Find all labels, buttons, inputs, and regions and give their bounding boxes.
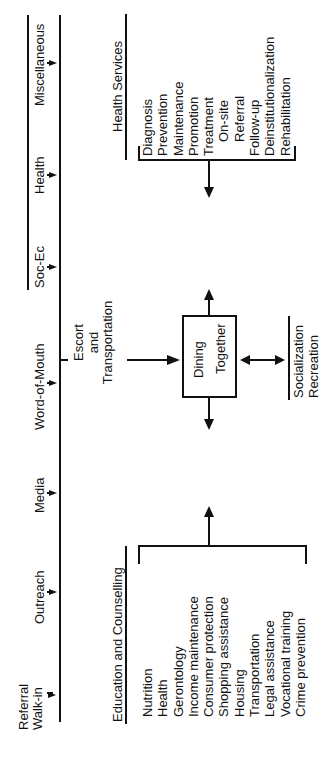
health-item: Diagnosis bbox=[140, 37, 155, 156]
health-bracket-bottom bbox=[138, 159, 296, 161]
source-referral-label: Referral bbox=[17, 684, 31, 730]
health-item: Deinstitutionalization bbox=[262, 37, 277, 156]
education-item: Consumer protection bbox=[201, 596, 216, 717]
social-arrow-up-icon bbox=[240, 355, 250, 365]
social-arrow-down-icon bbox=[275, 355, 285, 365]
escort-arrow-shaft bbox=[127, 359, 169, 361]
escort-line3: Transportation bbox=[101, 290, 116, 395]
health-item: Referral bbox=[232, 37, 247, 156]
health-item: On-site bbox=[216, 37, 231, 156]
education-item: Transportation bbox=[247, 596, 262, 717]
education-item: Gerontology bbox=[171, 596, 186, 717]
intake-upper-line bbox=[27, 15, 29, 290]
source-health-label: Health bbox=[32, 156, 47, 194]
source-outreach-label: Outreach bbox=[32, 571, 47, 624]
health-arrow-icon bbox=[204, 187, 214, 198]
education-bracket-right bbox=[305, 547, 307, 564]
health-item: Follow-up bbox=[247, 37, 262, 156]
health-services-list: Diagnosis Prevention Maintenance Promoti… bbox=[140, 37, 293, 156]
source-miscellaneous-label: Miscellaneous bbox=[32, 24, 47, 106]
socialization-line1: Socialization bbox=[292, 325, 307, 398]
arrow-walkin-icon bbox=[48, 692, 56, 698]
intake-main-line bbox=[59, 15, 61, 722]
education-item: Health bbox=[155, 596, 170, 717]
arrow-word-of-mouth-icon bbox=[49, 380, 57, 386]
health-item: Rehabilitation bbox=[278, 37, 293, 156]
escort-label: Escort and Transportation bbox=[72, 290, 116, 395]
escort-arrow-icon bbox=[167, 355, 180, 365]
arrow-miscellaneous-icon bbox=[49, 60, 57, 66]
education-title: Education and Counselling bbox=[110, 567, 125, 722]
health-services-rule bbox=[125, 14, 127, 160]
arrow-health-icon bbox=[49, 172, 57, 178]
education-list: Nutrition Health Gerontology Income main… bbox=[140, 596, 308, 717]
education-item: Vocational training bbox=[278, 596, 293, 717]
education-arrow-shaft bbox=[208, 516, 210, 546]
health-arrow-shaft bbox=[208, 160, 210, 190]
socialization-line2: Recreation bbox=[307, 325, 322, 398]
box-left-arrow-shaft bbox=[208, 398, 210, 420]
health-item: Prevention bbox=[155, 37, 170, 156]
escort-branch-line bbox=[60, 359, 68, 361]
source-referral-walkin: Referral Walk-in bbox=[17, 684, 45, 730]
arrow-soc-ec-icon bbox=[49, 264, 57, 270]
education-item: Nutrition bbox=[140, 596, 155, 717]
education-title-rule bbox=[125, 546, 127, 724]
education-bracket-top bbox=[138, 545, 307, 547]
arrow-outreach-icon bbox=[49, 589, 57, 595]
education-item: Shopping assistance bbox=[216, 596, 231, 717]
dining-together-box: Dining Together bbox=[182, 315, 237, 398]
education-bracket-left bbox=[138, 547, 140, 564]
box-right-arrow-icon bbox=[204, 289, 214, 300]
health-item: Treatment bbox=[201, 37, 216, 156]
escort-line1: Escort bbox=[72, 290, 87, 395]
dining-label: Dining bbox=[191, 341, 206, 378]
arrow-media-icon bbox=[49, 490, 57, 496]
source-word-of-mouth-label: Word-of-Mouth bbox=[32, 344, 47, 430]
source-soc-ec-label: Soc-Ec bbox=[32, 246, 47, 288]
education-item: Housing bbox=[232, 596, 247, 717]
education-item: Legal assistance bbox=[262, 596, 277, 717]
escort-line2: and bbox=[87, 290, 102, 395]
diagram-canvas: Referral Walk-in Outreach Media Word-of-… bbox=[0, 0, 336, 760]
box-left-arrow-icon bbox=[204, 419, 214, 430]
health-item: Promotion bbox=[186, 37, 201, 156]
source-media-label: Media bbox=[32, 478, 47, 513]
education-arrow-icon bbox=[204, 506, 214, 517]
socialization-label: Socialization Recreation bbox=[292, 325, 321, 398]
together-label: Together bbox=[213, 323, 228, 374]
education-item: Crime prevention bbox=[293, 596, 308, 717]
education-item: Income maintenance bbox=[186, 596, 201, 717]
health-services-title: Health Services bbox=[110, 41, 125, 132]
socialization-bar bbox=[288, 316, 290, 400]
health-item: Maintenance bbox=[171, 37, 186, 156]
health-bracket-right bbox=[294, 146, 296, 161]
source-walkin-label: Walk-in bbox=[31, 684, 45, 730]
